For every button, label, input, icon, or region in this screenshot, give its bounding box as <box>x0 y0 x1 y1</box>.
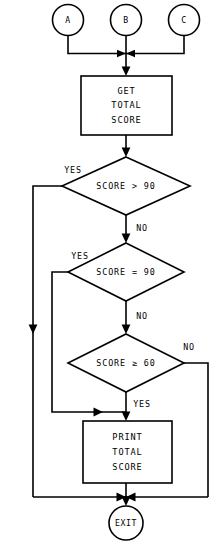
process-print-line3: SCORE <box>112 462 142 472</box>
process-print-total-score: PRINT TOTAL SCORE <box>83 421 172 483</box>
arrowhead-into-exit <box>122 497 131 507</box>
flowchart-canvas: A B C GET TOTAL SCORE SC <box>0 0 218 550</box>
connector-label-a: A <box>65 15 71 25</box>
decision1-text: SCORE > 90 <box>96 181 155 191</box>
edge-decision1-yes <box>33 186 62 497</box>
decision3-yes-label: YES <box>133 399 151 409</box>
decision2-text: SCORE = 90 <box>96 267 155 277</box>
arrowhead-into-decision2 <box>122 234 131 244</box>
decision3-text: SCORE ≥ 60 <box>96 358 155 368</box>
connector-label-b: B <box>123 15 129 25</box>
terminator-exit: EXIT <box>109 506 143 540</box>
decision3-no-label: NO <box>183 342 195 352</box>
edge-decision3-no <box>184 363 208 497</box>
process-get-total-score: GET TOTAL SCORE <box>81 76 172 135</box>
arrowhead-into-decision1 <box>122 148 131 158</box>
connector-node-b: B <box>111 5 142 36</box>
exit-label: EXIT <box>115 518 137 528</box>
process-print-line2: TOTAL <box>112 447 142 457</box>
decision2-no-label: NO <box>136 311 148 321</box>
process-print-line1: PRINT <box>112 432 142 442</box>
arrowhead-merge-left <box>117 50 126 57</box>
decision2-yes-label: YES <box>71 251 89 261</box>
arrowhead-outer-rail-down <box>29 325 38 335</box>
decision1-yes-label: YES <box>64 165 82 175</box>
connector-label-c: C <box>181 15 187 25</box>
arrowhead-into-print-box <box>122 412 131 422</box>
connector-node-c: C <box>169 5 200 36</box>
arrowhead-into-decision3 <box>122 325 131 335</box>
process-get-line2: TOTAL <box>111 100 141 110</box>
decision1-no-label: NO <box>136 223 148 233</box>
arrowhead-into-get-box <box>122 67 131 77</box>
arrowhead-inner-rail-into-print <box>94 408 104 417</box>
process-get-line3: SCORE <box>111 115 141 125</box>
flowchart-diagram: A B C GET TOTAL SCORE SC <box>0 0 218 550</box>
process-get-line1: GET <box>117 86 135 96</box>
arrowhead-merge-right <box>126 50 135 57</box>
decision-score-ge-60: SCORE ≥ 60 <box>68 334 184 392</box>
connector-node-a: A <box>53 5 84 36</box>
